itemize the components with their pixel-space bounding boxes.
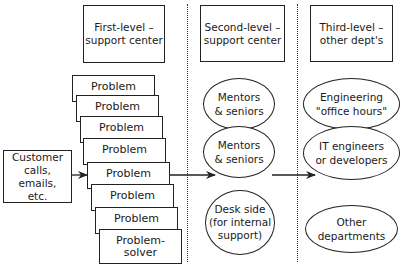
flow-arrows: [0, 0, 403, 277]
